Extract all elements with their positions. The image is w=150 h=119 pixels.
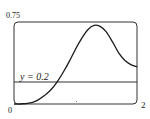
origin-label: 0 [8,106,12,115]
y-max-label: 0.75 [6,11,20,20]
x-tick-mark [76,101,77,102]
line-annotation: y = 0.2 [19,71,49,82]
chart: 0.75 0 2 y = 0.2 [0,0,150,119]
plot-frame [14,22,137,104]
x-max-label: 2 [141,100,146,110]
function-curve [14,25,137,104]
